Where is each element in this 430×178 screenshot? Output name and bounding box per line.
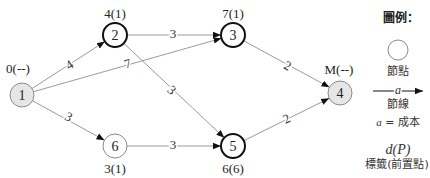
legend-node-caption: 節點: [387, 64, 409, 78]
edge-cost-1-2: 4: [62, 56, 76, 72]
edges: [32, 35, 329, 146]
legend-node-icon: [388, 40, 408, 60]
node-4: 4 M(--): [325, 62, 354, 106]
node-6-label: 6: [112, 139, 119, 154]
edge-cost-5-4: 2: [280, 110, 292, 126]
node-3: 3 7(1): [221, 6, 245, 48]
edge-cost-2-5: 3: [165, 82, 180, 97]
node-5-tag: 6(6): [222, 161, 244, 176]
legend-cost-definition: a = 成本: [376, 115, 420, 129]
legend-tag-caption: 標籤(前置點): [365, 157, 429, 171]
legend-title: 圖例：: [383, 10, 419, 25]
node-4-tag: M(--): [325, 62, 354, 77]
legend-cost-eq: = 成本: [382, 115, 420, 129]
legend-arc-caption: 節線: [387, 97, 409, 111]
node-3-label: 3: [230, 28, 237, 43]
edge-cost-1-6: 3: [62, 109, 75, 125]
legend-arc-symbol: a: [395, 83, 401, 97]
legend-tag-symbol: d(P): [386, 142, 411, 158]
edge-cost-2-3: 3: [170, 26, 177, 41]
node-4-label: 4: [337, 86, 344, 101]
node-1-tag: 0(--): [6, 61, 30, 76]
node-3-tag: 7(1): [222, 6, 244, 21]
node-5: 5 6(6): [221, 134, 245, 176]
shortest-path-diagram: 4 7 3 3 3 3 2 2 1 0(--) 2 4(1) 3 7(1) 4 …: [0, 0, 430, 178]
node-1: 1 0(--): [6, 61, 34, 108]
legend: 圖例： 節點 a 節線 a = 成本 d(P) 標籤(前置點): [365, 10, 429, 171]
edge-cost-3-4: 2: [281, 58, 294, 74]
node-1-label: 1: [19, 88, 26, 103]
node-2: 2 4(1): [103, 6, 127, 48]
edge-cost-6-5: 3: [170, 137, 177, 152]
node-2-label: 2: [112, 28, 119, 43]
node-6-tag: 3(1): [104, 161, 126, 176]
node-5-label: 5: [230, 139, 237, 154]
node-2-tag: 4(1): [104, 6, 126, 21]
node-6: 6 3(1): [103, 134, 127, 176]
